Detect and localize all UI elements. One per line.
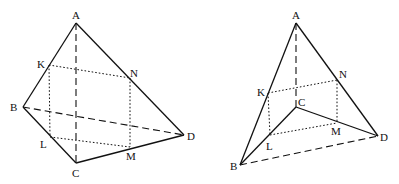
segment-KL — [49, 65, 50, 137]
label-D: D — [380, 131, 388, 143]
right-tetrahedron: A K N C L M B D — [230, 9, 388, 172]
segment-LM — [270, 123, 337, 135]
label-C: C — [72, 167, 79, 179]
label-M: M — [331, 125, 341, 137]
edge-BD-hidden — [240, 136, 378, 165]
label-N: N — [339, 68, 347, 80]
segment-KN — [268, 80, 337, 93]
label-A: A — [292, 9, 300, 21]
edge-BD-hidden — [23, 107, 184, 135]
label-C: C — [298, 96, 305, 108]
label-K: K — [37, 58, 45, 70]
left-tetrahedron: A K N B L C M D — [10, 9, 195, 179]
diagram-canvas: A K N B L C M D A K N C L M B D — [0, 0, 399, 184]
label-A: A — [72, 9, 80, 21]
segment-LM — [50, 137, 130, 147]
label-L: L — [266, 140, 273, 152]
label-B: B — [10, 101, 17, 113]
segment-KL — [268, 93, 270, 135]
edge-AD — [296, 23, 378, 136]
label-D: D — [187, 130, 195, 142]
label-B: B — [230, 160, 237, 172]
label-M: M — [126, 150, 136, 162]
edge-CB — [240, 107, 296, 165]
label-L: L — [40, 138, 47, 150]
label-N: N — [130, 67, 138, 79]
label-K: K — [257, 86, 265, 98]
